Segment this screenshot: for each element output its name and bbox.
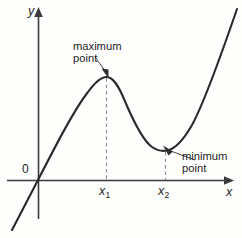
tick-label-x2-subscript: 2 — [165, 190, 170, 200]
maximum-point-annotation-line2: point — [73, 52, 121, 64]
y-axis — [34, 7, 43, 219]
y-axis-arrowhead — [34, 7, 43, 17]
x-axis-arrowhead — [224, 176, 234, 185]
tick-label-x1: x1 — [99, 185, 110, 199]
tick-label-x2-base: x — [158, 184, 164, 198]
graph-figure: y x 0 x1 x2 maximum point minimum point — [0, 0, 242, 238]
maximum-point-annotation: maximum point — [73, 40, 121, 64]
minimum-point-annotation-line1: minimum — [182, 150, 227, 162]
tick-label-x1-subscript: 1 — [106, 190, 111, 200]
maximum-point-annotation-line1: maximum — [73, 40, 121, 52]
x-axis-label: x — [226, 186, 232, 200]
graph-canvas — [0, 0, 242, 238]
x-axis — [7, 176, 234, 185]
minimum-point-annotation: minimum point — [182, 150, 227, 174]
tick-label-x2: x2 — [158, 185, 169, 199]
tick-label-x1-base: x — [99, 184, 105, 198]
y-axis-label: y — [28, 5, 34, 19]
minimum-point-annotation-line2: point — [182, 162, 227, 174]
function-curve — [12, 9, 237, 230]
origin-label: 0 — [22, 163, 29, 176]
